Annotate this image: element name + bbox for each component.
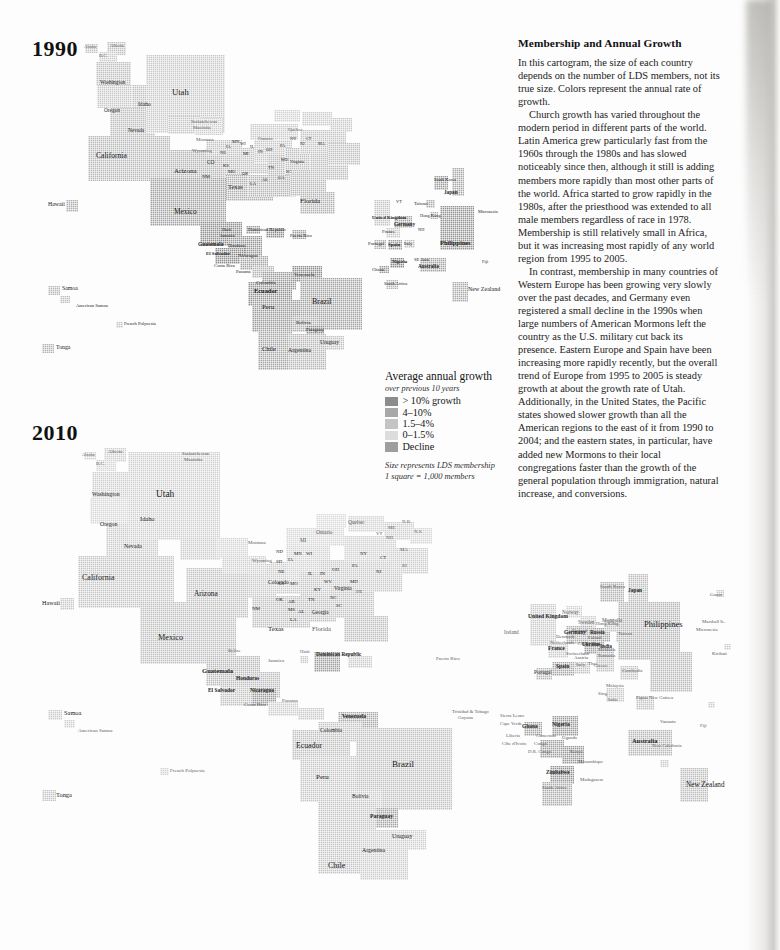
region-shape-kenya [562,746,584,764]
map-label: NH [418,228,424,232]
region-shape [286,528,344,546]
region-shape-japan [452,168,464,196]
region-shape [99,52,117,62]
map-label-florida: Florida [312,626,331,633]
region-shape [292,230,306,239]
article-paragraph: In this cartogram, the size of each coun… [518,56,720,108]
region-shape [116,322,123,328]
region-shape [250,124,298,140]
map-label: Haiti [300,650,310,655]
map-label: Fiji [700,724,707,729]
legend-entries: > 10% growth 4–10% 1.5–4% 0–1.5% Decline [385,396,526,453]
map-label: Montana [248,540,266,545]
region-shape [160,768,169,775]
map-label: VT [396,200,402,204]
region-shape [78,556,174,608]
region-shape [180,538,220,560]
region-shape [390,548,428,574]
region-shape [298,708,324,720]
region-shape-samoa [48,286,60,295]
region-shape [650,652,692,692]
legend-entry-label: > 10% growth [403,396,461,406]
region-shape [206,140,242,156]
map-label: Guyana [458,716,473,721]
map-label: French Polynesia [124,322,156,327]
region-shape-dr-congo [540,740,564,758]
region-shape [90,498,132,524]
region-shape [268,702,298,716]
region-shape-new-zealand [680,768,708,802]
region-shape-florida [300,192,335,214]
region-shape [716,590,724,597]
map-label: Puerto Rico [436,656,460,661]
article-title: Membership and Annual Growth [518,36,720,50]
region-shape-samoa [48,710,62,720]
region-shape-philippines [440,206,474,250]
region-shape [195,118,223,135]
region-shape-hong-kong [430,212,438,219]
region-shape-ghana [379,266,389,273]
region-shape [248,175,296,197]
article-column: Membership and Annual Growth In this car… [518,36,720,500]
region-shape-italy [574,662,590,674]
region-shape-france [386,228,400,238]
year-label-1990: 1990 [32,36,78,62]
legend-footnotes: Size represents LDS membership 1 square … [385,460,525,483]
page-root: Alaska Alberta B.C. Washington Oregon Id… [0,0,780,950]
region-shape-ghana [524,722,542,736]
map-label: Uganda [562,736,577,741]
map-label: Austria [574,656,588,661]
region-shape [222,556,266,574]
region-shape-tonga [42,344,54,353]
region-shape [302,112,332,126]
region-shape-taiwan [426,200,435,208]
region-shape [348,656,372,668]
region-shape-florida [344,616,388,642]
page-edge-shadow-top [746,0,772,300]
map-label-tonga: Tonga [56,345,70,351]
legend-entry: > 10% growth [385,396,526,407]
region-shape [96,62,131,85]
region-shape-south-korea [600,582,624,602]
legend-swatch-icon [385,442,398,452]
map-label-new-zealand: New Zealand [468,286,500,292]
region-shape-argentina [360,830,408,880]
map-label-tonga: Tonga [56,792,72,798]
region-shape-uk [530,604,556,646]
map-label: Fiji [482,260,488,264]
region-shape [620,666,638,680]
region-shape-italy [404,240,415,248]
region-shape-mexico [140,602,236,664]
map-label: Micronesia [696,628,718,633]
map-label: Marshall Is. [702,620,725,625]
region-shape-nigeria [390,258,404,268]
map-label: Kiribati [712,652,727,657]
legend-swatch-icon [385,408,398,418]
region-shape [282,596,336,622]
region-shape [84,452,96,460]
region-shape [274,110,300,122]
region-shape [410,528,432,544]
region-shape-new-zealand [452,282,468,302]
legend-entry: 0–1.5% [385,430,526,441]
cartogram-2010: Alaska Alberta B.C. Saskatchewan Manitob… [0,430,780,930]
legend-swatch-icon [385,419,398,429]
region-shape-south-africa [542,782,572,806]
region-shape-australia [628,730,672,756]
map-label-hawaii: Hawaii [48,202,65,208]
legend-entry-label: 4–10% [403,408,432,418]
map-label: Jamaica [268,658,284,663]
region-shape [606,688,624,702]
region-shape-portugal [536,668,552,680]
region-shape [596,658,614,672]
map-label: Costa Rica [214,264,235,269]
map-label: French Polynesia [170,768,205,773]
region-shape-papua-new-guinea [636,696,654,710]
year-label-2010: 2010 [32,420,78,446]
legend-entry-label: 1.5–4% [403,419,434,429]
region-shape-spain [552,662,574,676]
legend-swatch-icon [385,431,398,441]
region-shape [88,136,170,181]
legend-entry-label: 0–1.5% [403,430,434,440]
map-label: Vanuatu [660,720,676,725]
